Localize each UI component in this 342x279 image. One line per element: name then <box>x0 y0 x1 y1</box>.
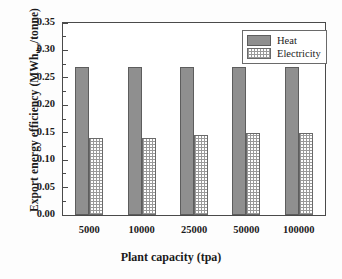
bar-electricity-50000 <box>246 133 260 215</box>
y-tick-mark <box>63 215 68 216</box>
bar-electricity-5000 <box>89 138 103 215</box>
y-minor-tick-mark <box>63 36 66 37</box>
y-tick-label: 0.30 <box>37 43 55 54</box>
y-tick-mark <box>63 132 68 133</box>
bar-electricity-100000 <box>299 133 313 215</box>
y-tick-label: 0.15 <box>37 126 55 137</box>
legend-item-electricity: Electricity <box>247 47 321 60</box>
y-tick-mark <box>63 77 68 78</box>
y-minor-tick-mark <box>63 64 66 65</box>
y-tick-mark <box>63 187 68 188</box>
x-tick-label: 100000 <box>259 224 339 235</box>
plot-area: 0.000.050.100.150.200.250.300.35 5000100… <box>62 22 326 216</box>
y-tick-mark <box>63 23 68 24</box>
y-tick-label: 0.20 <box>37 98 55 109</box>
bar-heat-50000 <box>232 67 246 215</box>
y-minor-tick-mark <box>63 173 66 174</box>
y-tick-mark <box>63 105 68 106</box>
legend-swatch-electricity <box>247 48 271 59</box>
legend-swatch-heat <box>247 35 271 46</box>
bar-electricity-10000 <box>142 138 156 215</box>
y-tick-mark <box>63 50 68 51</box>
bar-heat-5000 <box>75 67 89 215</box>
y-minor-tick-mark <box>63 91 66 92</box>
legend-label-electricity: Electricity <box>277 48 321 59</box>
bar-heat-100000 <box>285 67 299 215</box>
y-minor-tick-mark <box>63 201 66 202</box>
bar-heat-10000 <box>128 67 142 215</box>
y-tick-label: 0.25 <box>37 71 55 82</box>
legend-item-heat: Heat <box>247 34 321 47</box>
y-tick-label: 0.35 <box>37 16 55 27</box>
legend-label-heat: Heat <box>277 35 297 46</box>
y-minor-tick-mark <box>63 146 66 147</box>
y-minor-tick-mark <box>63 119 66 120</box>
bar-electricity-25000 <box>194 135 208 215</box>
chart-legend: Heat Electricity <box>242 30 327 64</box>
y-tick-label: 0.10 <box>37 153 55 164</box>
bar-heat-25000 <box>180 67 194 215</box>
x-axis-title: Plant capacity (tpa) <box>0 250 342 265</box>
y-tick-label: 0.05 <box>37 181 55 192</box>
y-tick-mark <box>63 160 68 161</box>
y-tick-label: 0.00 <box>37 208 55 219</box>
chart-figure: Export energy efficiency (MWhth,e/tonne)… <box>0 0 342 279</box>
